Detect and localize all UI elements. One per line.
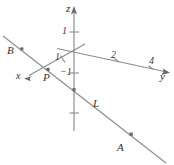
point-marker-origin-crossing [72,88,75,91]
x-axis-arrowhead [24,76,33,81]
line-L-group [3,36,166,163]
axes-diagram [0,0,174,165]
x-axis-tick-label-1: 1 [55,52,60,62]
y-axis-label: y [160,71,165,82]
figure-canvas: z y x 1 −1 1 2 4 L A B P [0,0,174,165]
z-axis-label: z [66,3,70,14]
line-L-label: L [93,98,99,109]
point-marker-A [129,133,132,136]
point-B-label: B [7,45,14,56]
point-A-label: A [117,142,124,153]
z-axis-tick-label-1: 1 [62,26,67,36]
line-L [3,36,166,163]
y-axis-tick-label-2: 2 [111,50,116,60]
point-marker-B [20,47,23,50]
y-axis-tick-label-4: 4 [149,56,154,66]
point-P-label: P [43,72,50,83]
z-axis-tick-label-neg1: −1 [60,67,72,77]
x-axis-label: x [16,71,20,81]
